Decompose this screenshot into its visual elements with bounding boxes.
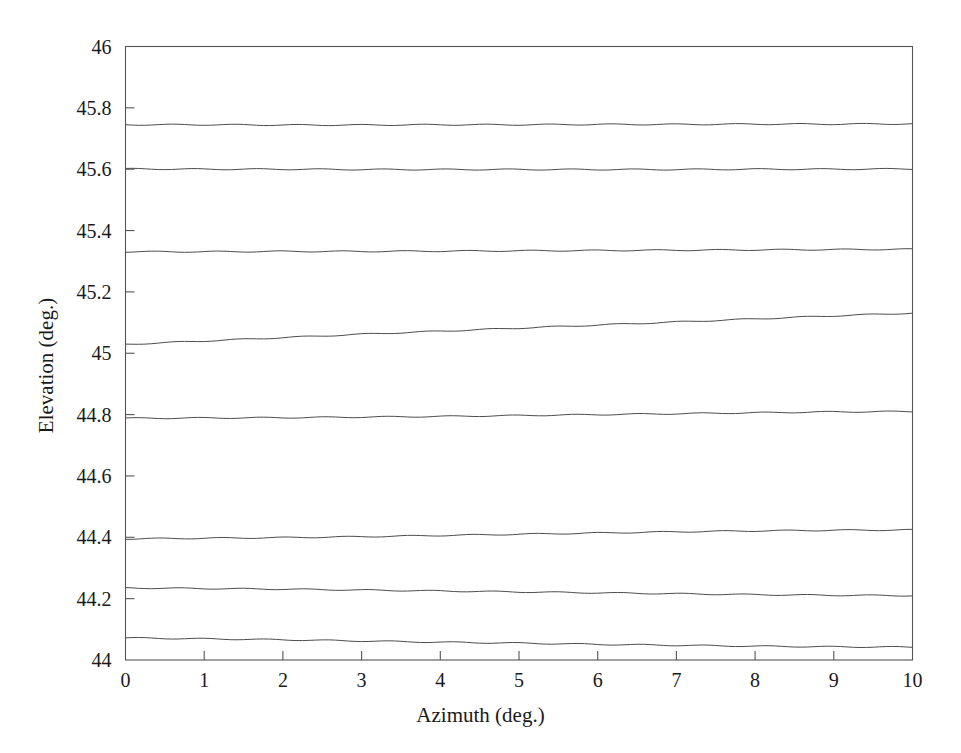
- y-tick-label: 46: [0, 37, 112, 57]
- x-tick-marks: [204, 651, 834, 660]
- contour-lines: [126, 123, 913, 647]
- x-axis-title: Azimuth (deg.): [0, 703, 961, 728]
- axes-frame: [126, 47, 913, 661]
- x-tick-label: 1: [199, 670, 209, 690]
- contour-line: [126, 587, 913, 596]
- x-tick-label: 10: [903, 670, 923, 690]
- y-axis-title: Elevation (deg.): [34, 59, 59, 673]
- x-tick-label: 8: [750, 670, 760, 690]
- x-tick-label: 6: [593, 670, 603, 690]
- x-tick-label: 2: [278, 670, 288, 690]
- contour-line: [126, 411, 913, 419]
- x-tick-label: 3: [357, 670, 367, 690]
- contour-line: [126, 529, 913, 539]
- x-tick-label: 4: [435, 670, 445, 690]
- x-tick-label: 5: [514, 670, 524, 690]
- contour-line: [126, 313, 913, 344]
- figure-canvas: 4444.244.444.644.84545.245.445.645.846 0…: [0, 0, 961, 753]
- contour-plot: [0, 0, 961, 753]
- contour-line: [126, 249, 913, 253]
- contour-line: [126, 637, 913, 647]
- contour-line: [126, 168, 913, 170]
- y-tick-marks: [126, 108, 135, 599]
- contour-line: [126, 123, 913, 125]
- x-tick-label: 0: [121, 670, 131, 690]
- x-tick-label: 7: [671, 670, 681, 690]
- plot-border: [126, 47, 913, 661]
- x-tick-label: 9: [829, 670, 839, 690]
